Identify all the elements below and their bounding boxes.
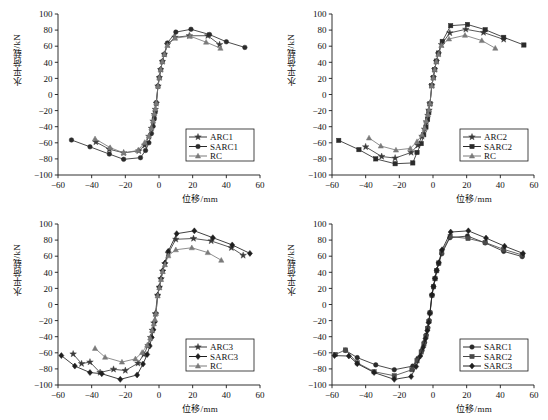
data-point-marker — [207, 32, 212, 37]
data-point-marker — [92, 136, 97, 141]
data-point-marker — [470, 345, 475, 350]
legend-label-SARC2: SARC2 — [484, 352, 512, 362]
x-tick-label: −40 — [359, 180, 374, 190]
legend-label-RC: RC — [484, 151, 496, 161]
legend-label-SARC1: SARC1 — [484, 342, 512, 352]
x-axis-title: 位移/mm — [182, 402, 218, 415]
data-point-marker — [415, 150, 419, 154]
y-tick-label: 20 — [44, 74, 54, 84]
data-point-marker — [337, 138, 341, 142]
data-point-marker — [447, 29, 454, 35]
data-point-marker — [135, 372, 140, 378]
data-point-marker — [224, 39, 229, 44]
x-axis-ticks: −60−40−200204060 — [325, 385, 539, 400]
legend-panel-a: ARC1SARC1RC — [186, 129, 254, 161]
y-axis-title: 水平荷载/kN — [284, 34, 297, 86]
plot-area-panel-a: −100−80−60−40−20020406080100−60−40−20020… — [0, 0, 274, 210]
data-point-marker — [87, 370, 92, 376]
x-tick-label: −40 — [85, 390, 100, 400]
y-tick-label: 0 — [322, 90, 327, 100]
x-tick-label: 60 — [530, 390, 540, 400]
data-point-marker — [378, 153, 385, 159]
data-point-marker — [522, 43, 526, 47]
y-tick-label: 100 — [313, 219, 327, 229]
x-tick-label: −20 — [392, 180, 407, 190]
data-point-marker — [392, 155, 399, 161]
data-point-marker — [107, 152, 112, 157]
data-point-marker — [343, 348, 347, 352]
x-axis-title: 位移/mm — [456, 402, 492, 415]
data-point-marker — [140, 361, 145, 367]
y-tick-label: 100 — [313, 9, 327, 19]
data-point-marker — [470, 144, 474, 148]
y-tick-label: −20 — [312, 106, 327, 116]
data-point-marker — [462, 33, 467, 38]
data-point-marker — [196, 144, 201, 149]
x-tick-label: −40 — [85, 180, 100, 190]
x-tick-label: 0 — [157, 180, 162, 190]
data-point-marker — [243, 45, 248, 50]
x-tick-label: 20 — [462, 390, 472, 400]
x-tick-label: −60 — [51, 390, 66, 400]
x-tick-label: 40 — [222, 180, 232, 190]
y-tick-label: −60 — [312, 348, 327, 358]
x-tick-label: −60 — [325, 180, 340, 190]
x-tick-label: −20 — [392, 390, 407, 400]
y-tick-label: −80 — [312, 364, 327, 374]
data-point-marker — [357, 147, 361, 151]
x-tick-label: 40 — [496, 180, 506, 190]
x-tick-label: 0 — [431, 180, 436, 190]
legend-label-RC: RC — [210, 151, 222, 161]
y-tick-label: 20 — [318, 74, 328, 84]
x-axis-ticks: −60−40−200204060 — [51, 385, 265, 400]
y-tick-label: 100 — [39, 9, 53, 19]
legend-panel-c: ARC3SARC3RC — [186, 339, 254, 371]
y-tick-label: −80 — [38, 154, 53, 164]
figure-root: −100−80−60−40−20020406080100−60−40−20020… — [0, 0, 548, 420]
legend-label-ARC2: ARC2 — [484, 132, 507, 142]
data-point-marker — [108, 145, 113, 150]
data-point-marker — [470, 354, 474, 358]
data-point-marker — [374, 157, 378, 161]
y-tick-label: 0 — [48, 300, 53, 310]
x-tick-label: 40 — [222, 390, 232, 400]
x-tick-label: 20 — [188, 390, 198, 400]
data-point-marker — [466, 236, 470, 240]
x-tick-label: 0 — [431, 390, 436, 400]
x-tick-label: 20 — [188, 180, 198, 190]
data-point-marker — [483, 240, 487, 244]
data-point-marker — [465, 22, 469, 26]
y-tick-label: 0 — [322, 300, 327, 310]
y-tick-label: −60 — [38, 348, 53, 358]
data-point-marker — [378, 143, 383, 148]
data-point-marker — [240, 252, 247, 258]
legend-panel-d: SARC1SARC2SARC3 — [460, 339, 528, 371]
x-tick-label: 60 — [256, 180, 266, 190]
y-tick-label: 60 — [318, 251, 328, 261]
y-tick-label: −40 — [38, 332, 53, 342]
data-point-marker — [70, 351, 77, 357]
legend-label-RC: RC — [210, 361, 222, 371]
legend-label-ARC3: ARC3 — [210, 342, 234, 352]
data-point-marker — [373, 363, 378, 368]
data-point-marker — [411, 161, 415, 165]
y-tick-label: 40 — [44, 268, 54, 278]
y-axis-title: 水平荷载/kN — [284, 244, 297, 296]
y-tick-label: 60 — [44, 251, 54, 261]
y-tick-label: −20 — [38, 106, 53, 116]
y-tick-label: −40 — [38, 122, 53, 132]
y-tick-label: −40 — [312, 122, 327, 132]
x-tick-label: −40 — [359, 390, 374, 400]
x-tick-label: 40 — [496, 390, 506, 400]
data-point-marker — [189, 27, 194, 32]
y-tick-label: 40 — [44, 58, 54, 68]
data-point-marker — [190, 235, 197, 241]
data-point-marker — [143, 148, 148, 153]
y-tick-label: 60 — [44, 41, 54, 51]
data-point-marker — [409, 374, 414, 380]
y-tick-label: −60 — [312, 138, 327, 148]
plot-area-panel-d: −100−80−60−40−20020406080100−60−40−20020… — [274, 210, 548, 420]
y-tick-label: 40 — [318, 268, 328, 278]
data-point-marker — [366, 135, 371, 140]
chart-panel-c: −100−80−60−40−20020406080100−60−40−20020… — [0, 210, 274, 420]
